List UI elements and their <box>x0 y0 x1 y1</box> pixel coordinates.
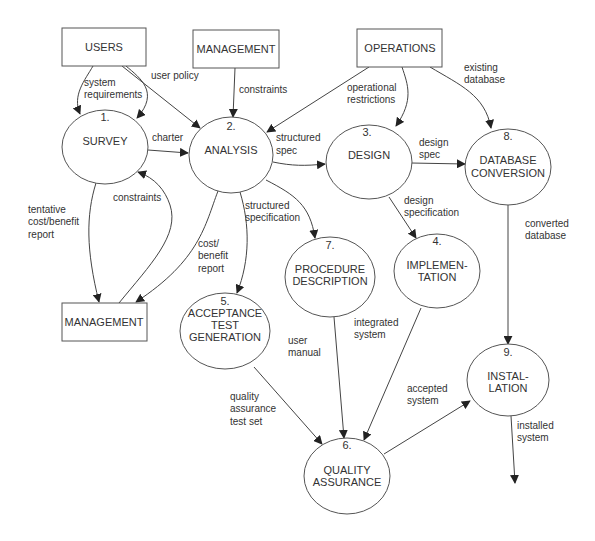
process-number: 7. <box>325 239 334 251</box>
entity-users: USERS <box>62 28 146 66</box>
flow-label: accepted <box>407 383 448 394</box>
process-label: DESCRIPTION <box>292 275 367 287</box>
flow-design-to-database-conversion <box>411 163 465 164</box>
flow-label: structured <box>276 132 320 143</box>
flow-management-to-analysis <box>233 68 235 117</box>
process-label: INSTAL- <box>487 370 529 382</box>
flow-label: report <box>198 263 224 274</box>
process-label: GENERATION <box>189 331 261 343</box>
flow-label: assurance <box>230 403 277 414</box>
flow-label: structured <box>245 200 289 211</box>
process-quality-assurance: 6. QUALITY ASSURANCE <box>304 438 390 514</box>
process-label: TEST <box>211 319 239 331</box>
entity-management-bottom: MANAGEMENT <box>62 303 147 341</box>
flow-label: spec <box>419 149 440 160</box>
flow-label: system <box>517 432 549 443</box>
process-number: 2. <box>226 120 235 132</box>
process-label: DESIGN <box>348 149 390 161</box>
process-number: 3. <box>362 126 371 138</box>
flow-label: database <box>464 74 506 85</box>
entity-operations: OPERATIONS <box>357 29 442 67</box>
flow-label: operational <box>347 82 396 93</box>
process-analysis: 2. ANALYSIS <box>189 117 273 193</box>
process-label: DATABASE <box>479 154 536 166</box>
process-label: ACCEPTANCE <box>188 307 262 319</box>
process-number: 8. <box>503 130 512 142</box>
flow-label: design <box>404 195 433 206</box>
entity-label: MANAGEMENT <box>197 43 276 55</box>
entity-label: OPERATIONS <box>364 42 435 54</box>
flow-label: constraints <box>113 192 161 203</box>
process-number: 1. <box>100 111 109 123</box>
flow-label: cost/benefit <box>28 216 79 227</box>
entity-label: USERS <box>85 41 123 53</box>
process-database-conversion: 8. DATABASE CONVERSION <box>465 129 551 205</box>
flow-label: restrictions <box>347 94 395 105</box>
flow-label: benefit <box>198 250 228 261</box>
entity-label: MANAGEMENT <box>65 316 144 328</box>
process-label: TATION <box>418 271 457 283</box>
process-label: LATION <box>489 382 528 394</box>
process-number: 5. <box>220 295 229 307</box>
flow-label: spec <box>276 145 297 156</box>
flow-quality-to-installation <box>384 401 470 454</box>
process-label: PROCEDURE <box>295 263 365 275</box>
data-flow-diagram: USERS MANAGEMENT OPERATIONS MANAGEMENT 1… <box>0 0 595 541</box>
flow-label: existing <box>464 62 498 73</box>
process-number: 9. <box>503 346 512 358</box>
flow-analysis-to-design <box>273 162 325 165</box>
flow-label: design <box>419 137 448 148</box>
process-label: ANALYSIS <box>205 144 258 156</box>
process-number: 6. <box>342 439 351 451</box>
flow-label: tentative <box>28 204 66 215</box>
flow-label: constraints <box>239 84 287 95</box>
process-label: IMPLEMEN- <box>406 259 467 271</box>
flow-label: specification <box>245 212 300 223</box>
flow-label: quality <box>230 391 259 402</box>
flow-label: user <box>288 335 308 346</box>
flow-label: charter <box>152 132 184 143</box>
process-label: SURVEY <box>82 135 128 147</box>
flow-label: requirements <box>84 89 142 100</box>
flow-label: system <box>84 77 116 88</box>
process-number: 4. <box>432 235 441 247</box>
flow-label: manual <box>288 347 321 358</box>
flow-survey-to-management <box>89 183 99 302</box>
process-label: QUALITY <box>323 464 371 476</box>
process-installation: 9. INSTAL- LATION <box>467 344 549 416</box>
flow-label: database <box>525 230 567 241</box>
process-procedure-description: 7. PROCEDURE DESCRIPTION <box>285 237 375 317</box>
flow-label: system <box>407 395 439 406</box>
flow-label: installed <box>517 420 554 431</box>
process-survey: 1. SURVEY <box>62 110 148 184</box>
flow-label: specification <box>404 207 459 218</box>
flow-operations-to-design <box>396 67 408 126</box>
flow-label: integrated <box>354 317 398 328</box>
flow-installation-output <box>511 416 515 483</box>
flow-label: report <box>28 229 54 240</box>
entity-management-top: MANAGEMENT <box>193 30 279 68</box>
process-implementation: 4. IMPLEMEN- TATION <box>394 234 480 308</box>
flow-label: system <box>354 329 386 340</box>
process-acceptance-test-generation: 5. ACCEPTANCE TEST GENERATION <box>180 293 270 369</box>
flow-label: converted <box>525 218 569 229</box>
process-label: ASSURANCE <box>313 476 381 488</box>
flow-label: user policy <box>151 70 199 81</box>
flow-label: test set <box>230 416 262 427</box>
flow-procedure-to-quality <box>334 317 344 438</box>
process-label: CONVERSION <box>471 167 545 179</box>
flow-label: cost/ <box>198 238 219 249</box>
process-design: 3. DESIGN <box>326 125 412 199</box>
flow-survey-to-analysis <box>148 150 188 153</box>
